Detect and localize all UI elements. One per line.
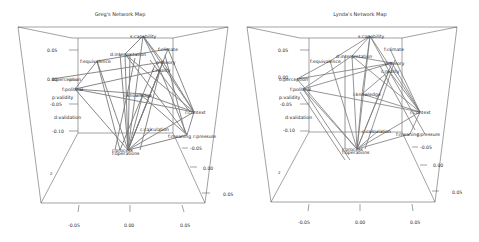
svg-text:f:political: f:political: [290, 87, 311, 92]
svg-text:f:climate: f:climate: [384, 47, 404, 52]
svg-text:0.00: 0.00: [203, 166, 213, 171]
svg-text:0.00: 0.00: [124, 223, 134, 228]
svg-text:z: z: [50, 171, 53, 176]
svg-text:f:operations: f:operations: [342, 150, 370, 155]
svg-text:0.05: 0.05: [223, 192, 233, 197]
svg-text:f:equivalence: f:equivalence: [310, 59, 341, 64]
svg-text:i:knowledge: i:knowledge: [353, 92, 381, 97]
svg-text:d:interpretation: d:interpretation: [110, 52, 146, 57]
svg-text:p:validity: p:validity: [279, 95, 301, 100]
svg-text:s:capability: s:capability: [130, 34, 157, 39]
svg-text:c:calculation: c:calculation: [140, 127, 169, 132]
svg-text:r:context: r:context: [410, 110, 431, 115]
svg-text:-0.05: -0.05: [298, 220, 310, 225]
svg-text:f:meaning: f:meaning: [396, 132, 419, 137]
svg-text:r:pressure: r:pressure: [417, 132, 440, 137]
lynda-network-plot: 0.05 0.00 -0.05 -0.10 -0.05 0.00 0.05 -0…: [240, 0, 479, 242]
svg-text:o:perception: o:perception: [279, 77, 308, 82]
svg-text:o:perception: o:perception: [52, 77, 81, 82]
svg-text:-0.05: -0.05: [190, 146, 202, 151]
svg-text:-0.10: -0.10: [52, 129, 64, 134]
svg-text:s:capability: s:capability: [358, 34, 385, 39]
network-node-labels: s:capability f:climate d:interpretation …: [279, 34, 440, 155]
svg-text:-0.05: -0.05: [280, 102, 292, 107]
svg-text:-0.05: -0.05: [420, 145, 432, 150]
svg-text:0.00: 0.00: [433, 163, 443, 168]
svg-text:0.05: 0.05: [180, 223, 190, 228]
network-node-labels: s:capability f:climate d:interpretation …: [52, 34, 216, 156]
svg-text:-0.05: -0.05: [50, 102, 62, 107]
svg-text:i:knowledge: i:knowledge: [124, 93, 152, 98]
svg-text:c:reality: c:reality: [152, 68, 171, 73]
svg-text:d:interpretation: d:interpretation: [336, 54, 372, 59]
svg-text:-0.05: -0.05: [68, 223, 80, 228]
svg-text:-0.10: -0.10: [283, 128, 295, 133]
svg-text:0.05: 0.05: [410, 220, 420, 225]
svg-text:d:validation: d:validation: [285, 115, 312, 120]
svg-text:d:validation: d:validation: [54, 115, 81, 120]
greg-network-panel: Greg's Network Map: [0, 0, 240, 242]
svg-text:f:meaning: f:meaning: [168, 134, 191, 139]
lynda-network-panel: Lynda's Network Map 0.: [240, 0, 479, 242]
svg-text:f:climate: f:climate: [158, 47, 178, 52]
svg-text:0.05: 0.05: [47, 48, 57, 53]
svg-text:c:reality: c:reality: [381, 69, 400, 74]
svg-text:f:operations: f:operations: [112, 151, 140, 156]
svg-text:0.05: 0.05: [452, 190, 462, 195]
svg-text:r:context: r:context: [185, 110, 206, 115]
svg-text:p:theory: p:theory: [385, 61, 405, 66]
svg-text:z: z: [278, 170, 281, 175]
svg-text:0.05: 0.05: [278, 48, 288, 53]
svg-text:c:calculation: c:calculation: [362, 129, 391, 134]
svg-text:0.00: 0.00: [355, 220, 365, 225]
svg-text:f:equivalence: f:equivalence: [80, 59, 111, 64]
greg-network-plot: 0.05 0.00 -0.05 -0.10 -0.05 0.00 0.05 -0…: [0, 0, 240, 242]
svg-text:p:theory: p:theory: [156, 60, 176, 65]
svg-text:p:validity: p:validity: [52, 95, 74, 100]
svg-text:r:pressure: r:pressure: [193, 134, 216, 139]
svg-text:f:political: f:political: [62, 87, 83, 92]
